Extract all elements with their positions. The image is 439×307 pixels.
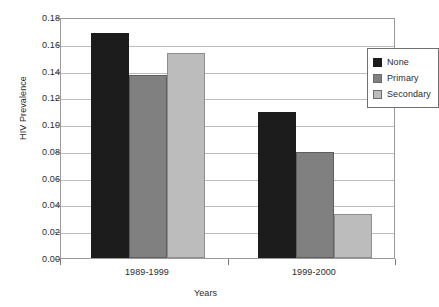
y-axis-tick-label: 0.04 <box>20 200 60 210</box>
y-axis-tick-label: 0.12 <box>20 93 60 103</box>
bar-none-1999-2000 <box>258 112 296 258</box>
legend-item-primary: Primary <box>373 70 431 86</box>
legend-item-secondary: Secondary <box>373 86 431 102</box>
x-axis-tick-label: 1999-2000 <box>254 267 374 277</box>
y-axis-tick-label: 0.06 <box>20 174 60 184</box>
legend-label: None <box>387 57 409 67</box>
x-axis-title: Years <box>0 288 411 298</box>
legend-swatch-icon <box>373 90 382 99</box>
y-axis-tick-label: 0.10 <box>20 120 60 130</box>
bar-none-1989-1999 <box>91 33 129 258</box>
bar-secondary-1999-2000 <box>334 214 372 258</box>
legend-item-none: None <box>373 54 431 70</box>
bar-primary-1999-2000 <box>296 152 334 258</box>
y-axis-tick-label: 0.16 <box>20 40 60 50</box>
x-axis-tick-mark <box>228 259 229 265</box>
x-axis-tick-label: 1989-1999 <box>87 267 207 277</box>
legend-rows: NonePrimarySecondary <box>373 54 431 102</box>
y-axis-tick-label: 0.14 <box>20 67 60 77</box>
x-axis-tick-mark <box>395 259 396 265</box>
y-axis-tick-label: 0.18 <box>20 13 60 23</box>
legend: NonePrimarySecondary <box>367 48 439 108</box>
legend-label: Primary <box>387 73 419 83</box>
bar-secondary-1989-1999 <box>167 53 205 258</box>
y-axis-tick-label: 0.00 <box>20 254 60 264</box>
y-axis-tick-label: 0.02 <box>20 227 60 237</box>
legend-swatch-icon <box>373 58 382 67</box>
legend-label: Secondary <box>387 89 431 99</box>
legend-swatch-icon <box>373 74 382 83</box>
y-axis-tick-label: 0.08 <box>20 147 60 157</box>
y-axis-title: HIV Prevalence <box>18 38 28 178</box>
x-axis-tick-mark <box>60 259 61 265</box>
bar-primary-1989-1999 <box>129 75 167 258</box>
plot-area: NonePrimarySecondary <box>60 18 395 259</box>
